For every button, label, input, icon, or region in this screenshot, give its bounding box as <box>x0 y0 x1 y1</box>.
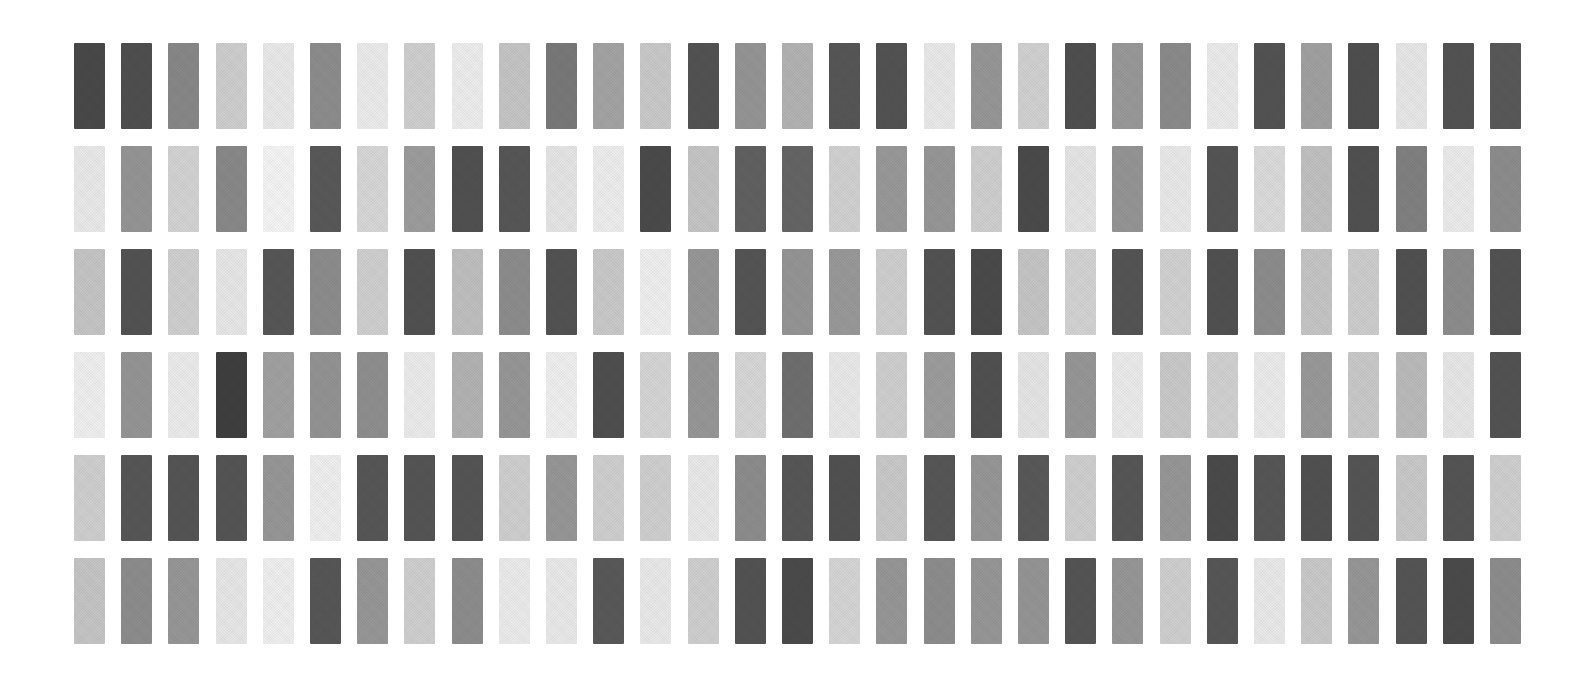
swatch-cell <box>876 146 907 232</box>
swatch-cell <box>1396 249 1427 335</box>
swatch-cell <box>74 455 105 541</box>
swatch-cell <box>1065 352 1096 438</box>
swatch-cell <box>310 455 341 541</box>
swatch-cell <box>168 352 199 438</box>
swatch-cell <box>593 146 624 232</box>
swatch-cell <box>357 249 388 335</box>
swatch-cell <box>1254 352 1285 438</box>
swatch-cell <box>640 558 671 644</box>
swatch-cell <box>1443 455 1474 541</box>
swatch-cell <box>688 352 719 438</box>
swatch-cell <box>1160 558 1191 644</box>
swatch-cell <box>1018 249 1049 335</box>
swatch-cell <box>735 43 766 129</box>
swatch-cell <box>1490 352 1521 438</box>
swatch-cell <box>1254 455 1285 541</box>
swatch-cell <box>168 249 199 335</box>
swatch-cell <box>1443 249 1474 335</box>
swatch-cell <box>1490 146 1521 232</box>
swatch-cell <box>1160 43 1191 129</box>
swatch-cell <box>168 43 199 129</box>
swatch-cell <box>640 455 671 541</box>
swatch-cell <box>735 249 766 335</box>
swatch-cell <box>1018 146 1049 232</box>
swatch-cell <box>1207 146 1238 232</box>
swatch-cell <box>1160 146 1191 232</box>
swatch-cell <box>971 352 1002 438</box>
swatch-cell <box>640 249 671 335</box>
swatch-cell <box>593 558 624 644</box>
swatch-cell <box>593 352 624 438</box>
swatch-cell <box>971 146 1002 232</box>
swatch-cell <box>263 455 294 541</box>
swatch-cell <box>924 146 955 232</box>
swatch-cell <box>1490 455 1521 541</box>
swatch-cell <box>546 352 577 438</box>
swatch-cell <box>1396 455 1427 541</box>
swatch-cell <box>121 146 152 232</box>
swatch-cell <box>404 249 435 335</box>
swatch-cell <box>263 146 294 232</box>
swatch-cell <box>829 352 860 438</box>
swatch-cell <box>121 249 152 335</box>
swatch-cell <box>1112 146 1143 232</box>
swatch-cell <box>452 352 483 438</box>
swatch-cell <box>1301 352 1332 438</box>
swatch-cell <box>499 146 530 232</box>
swatch-cell <box>782 455 813 541</box>
swatch-cell <box>74 249 105 335</box>
swatch-cell <box>404 558 435 644</box>
swatch-cell <box>1348 558 1379 644</box>
swatch-cell <box>1254 249 1285 335</box>
swatch-row <box>0 558 1579 644</box>
swatch-cell <box>640 43 671 129</box>
swatch-cell <box>168 558 199 644</box>
swatch-cell <box>924 455 955 541</box>
swatch-cell <box>1112 558 1143 644</box>
swatch-cell <box>546 43 577 129</box>
swatch-row <box>0 43 1579 129</box>
swatch-cell <box>971 558 1002 644</box>
swatch-cell <box>1443 352 1474 438</box>
swatch-cell <box>1018 43 1049 129</box>
swatch-cell <box>404 146 435 232</box>
swatch-cell <box>216 43 247 129</box>
swatch-cell <box>1254 43 1285 129</box>
swatch-cell <box>829 455 860 541</box>
swatch-cell <box>971 43 1002 129</box>
swatch-cell <box>1254 558 1285 644</box>
swatch-cell <box>782 558 813 644</box>
swatch-cell <box>1443 146 1474 232</box>
swatch-cell <box>216 352 247 438</box>
swatch-cell <box>121 558 152 644</box>
swatch-cell <box>688 558 719 644</box>
swatch-cell <box>1348 352 1379 438</box>
swatch-cell <box>1301 558 1332 644</box>
swatch-cell <box>1018 352 1049 438</box>
swatch-cell <box>1207 249 1238 335</box>
swatch-cell <box>74 558 105 644</box>
swatch-cell <box>1301 249 1332 335</box>
swatch-cell <box>216 558 247 644</box>
swatch-cell <box>216 249 247 335</box>
swatch-cell <box>1065 249 1096 335</box>
swatch-cell <box>829 249 860 335</box>
swatch-cell <box>499 43 530 129</box>
swatch-cell <box>357 455 388 541</box>
swatch-cell <box>1301 146 1332 232</box>
swatch-cell <box>1160 352 1191 438</box>
swatch-cell <box>876 249 907 335</box>
swatch-cell <box>74 43 105 129</box>
swatch-cell <box>1065 146 1096 232</box>
swatch-cell <box>1348 146 1379 232</box>
swatch-cell <box>876 43 907 129</box>
swatch-cell <box>499 455 530 541</box>
swatch-cell <box>971 249 1002 335</box>
swatch-cell <box>1112 249 1143 335</box>
swatch-cell <box>735 352 766 438</box>
swatch-cell <box>782 249 813 335</box>
swatch-cell <box>829 43 860 129</box>
swatch-cell <box>357 146 388 232</box>
swatch-cell <box>1348 43 1379 129</box>
swatch-cell <box>924 43 955 129</box>
